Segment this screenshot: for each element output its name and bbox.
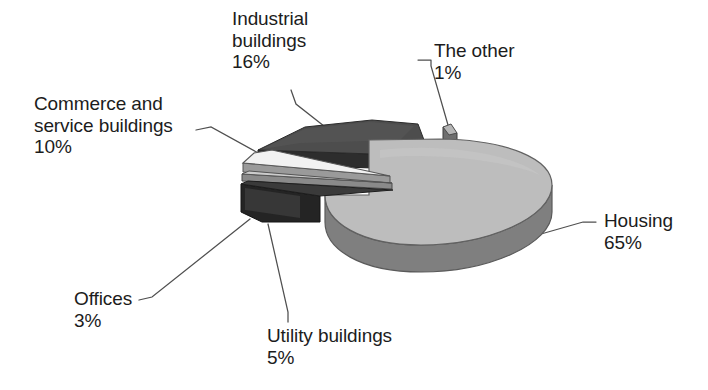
label-commerce-line2: service buildings <box>34 115 173 136</box>
label-other-percent: 1% <box>434 62 514 84</box>
label-industrial-buildings: Industrial buildings 16% <box>232 8 308 73</box>
label-utility-buildings: Utility buildings 5% <box>267 325 392 368</box>
label-commerce-and-service-buildings: Commerce and service buildings 10% <box>34 93 173 158</box>
label-utility-line1: Utility buildings <box>267 325 392 346</box>
label-housing: Housing 65% <box>604 210 673 253</box>
leader-line-offices <box>139 219 250 300</box>
label-utility-percent: 5% <box>267 347 392 369</box>
label-housing-line1: Housing <box>604 210 673 231</box>
label-industrial-line2: buildings <box>232 30 306 51</box>
leader-line-commerce <box>196 127 262 155</box>
label-commerce-line1: Commerce and <box>34 93 163 114</box>
label-commerce-percent: 10% <box>34 136 173 158</box>
leader-line-industrial <box>291 90 329 130</box>
label-offices-line1: Offices <box>74 288 132 309</box>
label-industrial-percent: 16% <box>232 51 308 73</box>
label-industrial-line1: Industrial <box>232 8 308 29</box>
label-housing-percent: 65% <box>604 232 673 254</box>
leader-line-utility <box>268 224 288 322</box>
label-offices-percent: 3% <box>74 310 132 332</box>
pie-chart-figure: Industrial buildings 16% The other 1% Co… <box>0 0 708 390</box>
label-the-other: The other 1% <box>434 40 514 83</box>
label-other-line1: The other <box>434 40 514 61</box>
label-offices: Offices 3% <box>74 288 132 331</box>
